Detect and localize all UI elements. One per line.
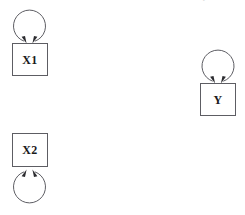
node-box-x1[interactable]: X1 <box>12 43 48 76</box>
self-loop-x1-arc <box>14 10 46 41</box>
clipped-caption-text: structural model with residual variance … <box>0 0 245 3</box>
node-box-y[interactable]: Y <box>200 83 236 116</box>
self-loop-x2-arc <box>14 172 46 203</box>
node-label-y: Y <box>214 94 223 106</box>
self-loop-y <box>202 50 234 83</box>
self-loop-y-arc <box>202 50 234 81</box>
self-loop-x2-arrowhead-left <box>22 169 27 177</box>
node-label-x1: X1 <box>22 54 37 66</box>
node-box-x2[interactable]: X2 <box>12 133 48 167</box>
node-label-x2: X2 <box>22 144 37 156</box>
self-loop-x1 <box>14 10 46 43</box>
self-loop-x2 <box>14 169 46 202</box>
self-loop-x2-arrowhead-right <box>32 169 37 177</box>
path-diagram-canvas: structural model with residual variance … <box>0 0 245 215</box>
